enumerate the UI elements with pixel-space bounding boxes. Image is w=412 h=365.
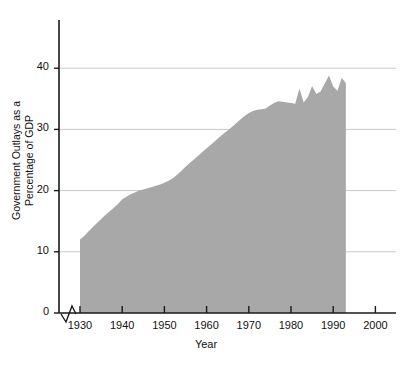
x-tick-label-1970: 1970 <box>229 319 269 331</box>
y-tick-label-0: 0 <box>21 305 49 317</box>
y-tick-label-20: 20 <box>21 183 49 195</box>
x-tick-label-1940: 1940 <box>102 319 142 331</box>
chart-figure: Government Outlays as a Percentage of GD… <box>0 0 412 365</box>
x-tick-label-1950: 1950 <box>144 319 184 331</box>
area-fill <box>80 76 346 313</box>
y-tick-label-40: 40 <box>21 60 49 72</box>
x-tick-label-1980: 1980 <box>271 319 311 331</box>
y-tick-label-10: 10 <box>21 244 49 256</box>
x-tick-label-1960: 1960 <box>187 319 227 331</box>
area-series <box>80 76 346 313</box>
x-tick-label-1990: 1990 <box>313 319 353 331</box>
y-tick-label-30: 30 <box>21 121 49 133</box>
x-tick-label-1930: 1930 <box>60 319 100 331</box>
x-tick-label-2000: 2000 <box>355 319 395 331</box>
chart-canvas <box>0 0 412 365</box>
x-axis-title: Year <box>0 338 412 350</box>
